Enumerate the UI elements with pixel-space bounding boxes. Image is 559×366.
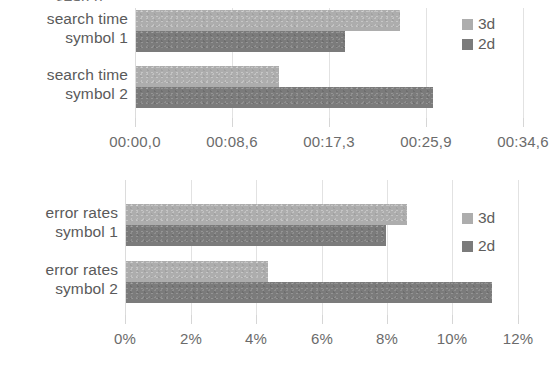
bar-2d-error-rates-symbol-1 xyxy=(126,225,386,246)
bar-3d-error-rates-symbol-2 xyxy=(126,261,268,282)
tick-1 xyxy=(232,118,233,127)
gridline-6 xyxy=(518,180,519,315)
tick-3 xyxy=(426,118,427,127)
legend-search-time: 3d 2d xyxy=(462,14,495,54)
category-label-error-rates-symbol-1: error rates symbol 1 xyxy=(0,203,118,241)
bar-2d-search-time-symbol-1 xyxy=(136,31,345,52)
category-label-search-time-symbol-2: search time symbol 2 xyxy=(0,65,128,103)
legend-item-3d[interactable]: 3d xyxy=(462,208,495,228)
tick-6 xyxy=(518,315,519,324)
bar-3d-error-rates-symbol-1 xyxy=(126,204,407,225)
tick-3 xyxy=(322,315,323,324)
tick-2 xyxy=(329,118,330,127)
tick-1 xyxy=(191,315,192,324)
legend-label-3d: 3d xyxy=(478,210,495,226)
xtick-label-1: 00:08,6 xyxy=(192,133,272,150)
gridline-4 xyxy=(523,8,524,118)
xtick-label-4: 00:34,6 xyxy=(483,133,559,150)
tick-0 xyxy=(125,315,126,324)
xtick-label-5: 10% xyxy=(422,330,482,347)
legend-swatch-2d-icon xyxy=(462,39,473,50)
tick-2 xyxy=(256,315,257,324)
xtick-label-0: 00:00,0 xyxy=(95,133,175,150)
bar-3d-search-time-symbol-2 xyxy=(136,66,279,87)
legend-swatch-3d-icon xyxy=(462,213,473,224)
xtick-label-1: 2% xyxy=(161,330,221,347)
xtick-label-0: 0% xyxy=(95,330,155,347)
tick-0 xyxy=(135,118,136,127)
legend-swatch-3d-icon xyxy=(462,19,473,30)
cropped-top-text: search xyxy=(56,0,116,1)
bar-3d-search-time-symbol-1 xyxy=(136,10,400,31)
legend-swatch-2d-icon xyxy=(462,241,473,252)
xtick-label-3: 00:25,9 xyxy=(386,133,466,150)
xtick-label-4: 8% xyxy=(357,330,417,347)
legend-item-2d[interactable]: 2d xyxy=(462,236,495,256)
xtick-label-3: 6% xyxy=(292,330,352,347)
bar-2d-search-time-symbol-2 xyxy=(136,87,433,108)
tick-5 xyxy=(452,315,453,324)
legend-label-2d: 2d xyxy=(478,36,495,52)
tick-4 xyxy=(387,315,388,324)
xtick-label-2: 00:17,3 xyxy=(289,133,369,150)
legend-item-2d[interactable]: 2d xyxy=(462,34,495,54)
legend-item-3d[interactable]: 3d xyxy=(462,14,495,34)
legend-label-3d: 3d xyxy=(478,16,495,32)
category-label-error-rates-symbol-2: error rates symbol 2 xyxy=(0,260,118,298)
xtick-label-6: 12% xyxy=(488,330,548,347)
xtick-label-2: 4% xyxy=(226,330,286,347)
tick-4 xyxy=(523,118,524,127)
legend-label-2d: 2d xyxy=(478,238,495,254)
bar-2d-error-rates-symbol-2 xyxy=(126,282,492,303)
legend-error-rates: 3d 2d xyxy=(462,208,495,256)
category-label-search-time-symbol-1: search time symbol 1 xyxy=(0,9,128,47)
